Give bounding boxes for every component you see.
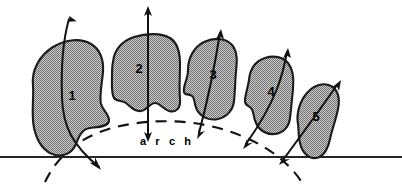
arch-label: a r c h — [140, 135, 194, 147]
tooth-number-label-2: 2 — [135, 61, 142, 76]
tooth-number-label-1: 1 — [68, 88, 75, 103]
tooth-group-3: 3 — [184, 39, 237, 120]
dental-arch-diagram: 1 2 3 4 5 — [0, 0, 402, 190]
tooth-shape-2 — [112, 34, 180, 111]
dental-arch-figure: 1 2 3 4 5 — [0, 0, 402, 190]
axis-arrow-tip-1 — [90, 157, 101, 170]
tooth-group-2: 2 — [112, 34, 180, 111]
axis-arrow-tip-3-down — [197, 128, 205, 139]
tooth-group-4: 4 — [245, 57, 293, 135]
tooth-group-5: 5 — [297, 84, 338, 158]
tooth-group-1: 1 — [33, 40, 109, 155]
